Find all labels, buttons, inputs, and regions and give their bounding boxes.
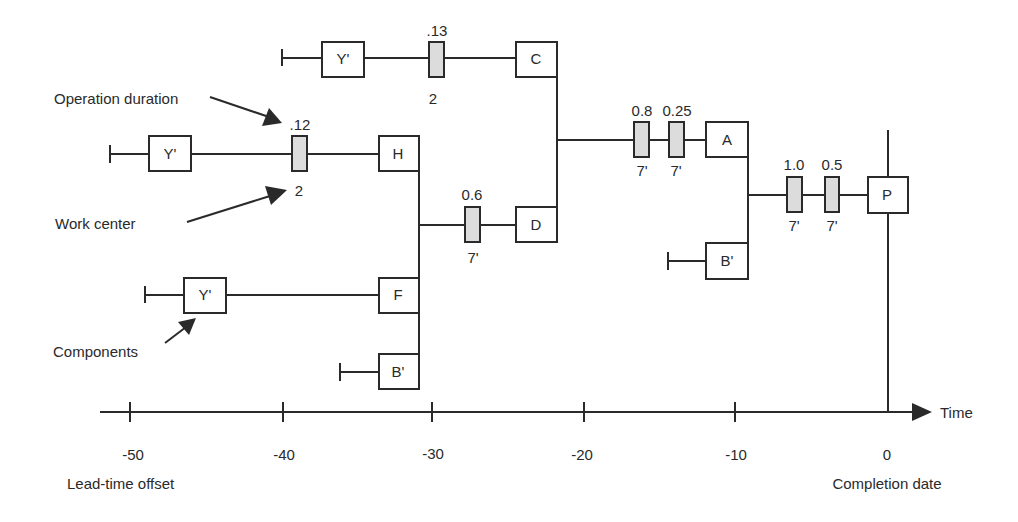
component-label: B' — [392, 363, 405, 380]
lead-time-offset-label: Lead-time offset — [67, 475, 175, 492]
lead-time-offset-diagram: Time -50 -40 -30 -20 -10 0 Lead-time off… — [0, 0, 1018, 522]
tick-label: -50 — [122, 446, 144, 463]
operation-bar — [429, 42, 444, 77]
components-label: Components — [53, 343, 138, 360]
operation-duration-label: Operation duration — [54, 90, 178, 107]
component-label: Y' — [164, 145, 177, 162]
operation-bar — [825, 177, 839, 212]
tick-label: -10 — [725, 446, 747, 463]
work-center: 7' — [670, 162, 681, 179]
work-center: 7' — [826, 217, 837, 234]
annotation-work-center: Work center — [55, 186, 287, 232]
tick-label: -40 — [273, 446, 295, 463]
tick-label: -20 — [571, 446, 593, 463]
operation-bar — [465, 207, 480, 242]
component-label: Y' — [199, 286, 212, 303]
item-label: C — [531, 50, 542, 67]
operation-bar — [292, 136, 307, 171]
arrowhead-icon — [178, 318, 196, 335]
operation-duration: .13 — [427, 22, 448, 39]
branch-f: Y' F — [145, 278, 419, 313]
tick-label: -30 — [422, 445, 444, 462]
pointer-arrow-icon — [187, 196, 270, 222]
arrowhead-icon — [262, 108, 282, 126]
operation-bar — [787, 177, 802, 212]
work-center: 7' — [788, 217, 799, 234]
operation-bar — [669, 122, 684, 157]
work-center: 7' — [636, 162, 647, 179]
work-center: 2 — [295, 182, 303, 199]
operation-duration: .12 — [290, 116, 311, 133]
pointer-arrow-icon — [210, 97, 272, 118]
branch-b-low: B' — [340, 354, 419, 389]
branch-d: 0.6 7' D — [419, 154, 557, 389]
item-label: A — [722, 131, 732, 148]
operation-duration: 0.5 — [822, 156, 843, 173]
time-axis: Time -50 -40 -30 -20 -10 0 Lead-time off… — [67, 402, 973, 492]
arrowhead-icon — [265, 186, 287, 205]
branch-h: Y' .12 2 H — [110, 116, 419, 199]
operation-duration: 1.0 — [784, 156, 805, 173]
operation-bar — [634, 122, 649, 157]
axis-label: Time — [940, 404, 973, 421]
axis-arrow-icon — [912, 403, 932, 421]
item-label: D — [531, 216, 542, 233]
branch-a: 0.8 7' 0.25 7' A — [557, 58, 748, 242]
work-center-label: Work center — [55, 215, 136, 232]
annotation-operation-duration: Operation duration — [54, 90, 282, 126]
operation-duration: 0.8 — [632, 102, 653, 119]
branch-b-right: B' — [668, 243, 748, 279]
operation-duration: 0.25 — [662, 102, 691, 119]
branch-c: Y' .13 2 C — [282, 22, 557, 107]
tick-label: 0 — [883, 446, 891, 463]
item-label: P — [882, 186, 892, 203]
operation-duration: 0.6 — [462, 186, 483, 203]
work-center: 2 — [429, 90, 437, 107]
item-label: F — [393, 286, 402, 303]
item-label: H — [393, 145, 404, 162]
annotation-components: Components — [53, 318, 196, 360]
completion-date-label: Completion date — [832, 475, 941, 492]
component-label: Y' — [337, 50, 350, 67]
branch-p: 1.0 7' 0.5 7' P — [748, 130, 908, 412]
component-label: B' — [721, 252, 734, 269]
work-center: 7' — [467, 249, 478, 266]
